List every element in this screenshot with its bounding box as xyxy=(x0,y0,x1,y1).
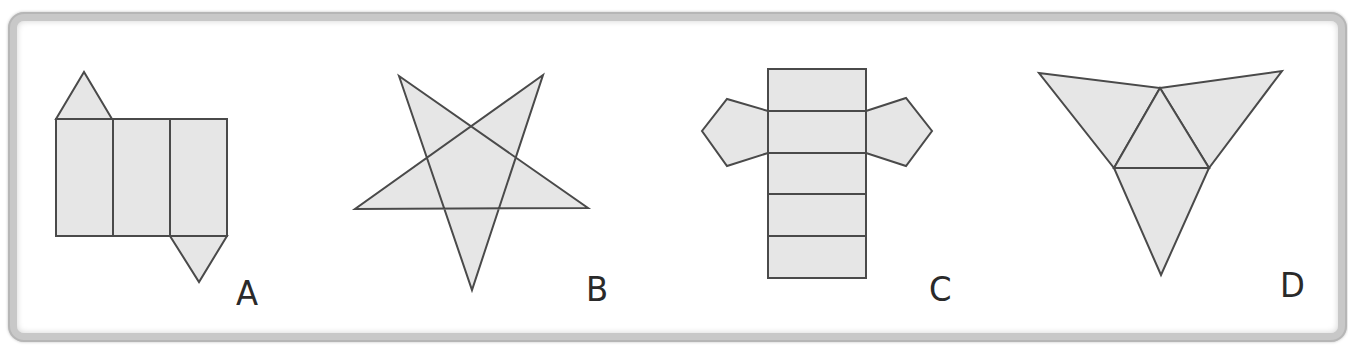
face-pentagon xyxy=(866,98,932,166)
face-rectangle xyxy=(768,153,866,194)
label-d: D xyxy=(1280,268,1305,302)
face-rectangle xyxy=(768,194,866,236)
face-rectangle xyxy=(768,236,866,278)
face-pentagon xyxy=(702,99,768,166)
face-triangle xyxy=(170,236,227,282)
label-a: A xyxy=(236,276,258,310)
face-triangle xyxy=(1114,168,1209,275)
label-b: B xyxy=(586,272,608,306)
face-pentagram xyxy=(355,75,588,290)
face-triangle xyxy=(56,72,112,119)
figure-d xyxy=(1039,71,1282,275)
face-rectangle xyxy=(113,119,170,236)
face-rectangle xyxy=(170,119,227,236)
nets-diagram xyxy=(0,0,1348,348)
face-rectangle xyxy=(768,111,866,153)
figure-c xyxy=(702,69,932,278)
label-c: C xyxy=(929,272,952,306)
figure-b xyxy=(355,75,588,290)
face-rectangle xyxy=(56,119,113,236)
face-rectangle xyxy=(768,69,866,111)
figure-a xyxy=(56,72,227,282)
